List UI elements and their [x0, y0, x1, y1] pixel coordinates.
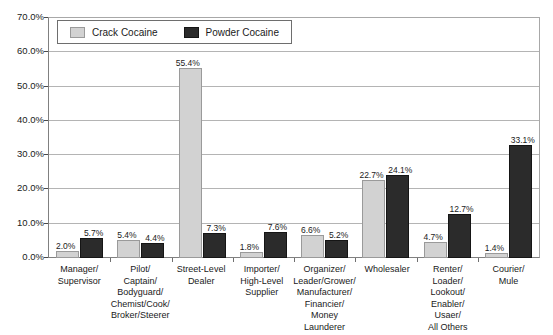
- bar-group: 4.7%12.7%: [417, 18, 478, 258]
- bar-group: 1.8%7.6%: [233, 18, 294, 258]
- x-axis-category-label: Manager/Supervisor: [49, 264, 110, 333]
- bar-value-label: 55.4%: [176, 58, 200, 68]
- bar-pair: 1.8%7.6%: [233, 18, 294, 258]
- bar-crack[interactable]: 1.4%: [485, 253, 508, 258]
- y-tick-label: 0.0%: [0, 252, 44, 262]
- x-tick-mark: [417, 258, 418, 262]
- x-axis-labels: Manager/SupervisorPilot/Captain/Bodyguar…: [49, 264, 539, 333]
- bar-pair: 5.4%4.4%: [110, 18, 171, 258]
- bar-value-label: 6.6%: [301, 225, 320, 235]
- bar-powder[interactable]: 5.7%: [80, 238, 103, 258]
- bar-powder[interactable]: 33.1%: [509, 145, 532, 258]
- x-tick-mark: [294, 258, 295, 262]
- bar-crack[interactable]: 2.0%: [56, 251, 79, 258]
- bar-pair: 1.4%33.1%: [478, 18, 539, 258]
- chart-legend: Crack CocainePowder Cocaine: [57, 20, 292, 44]
- bar-group: 2.0%5.7%: [49, 18, 110, 258]
- y-tick-label: 60.0%: [0, 46, 44, 56]
- bar-chart: 70.0%60.0%50.0%40.0%30.0%20.0%10.0%0.0% …: [0, 0, 553, 335]
- bar-value-label: 5.4%: [117, 230, 136, 240]
- bar-value-label: 33.1%: [511, 135, 535, 145]
- bar-powder[interactable]: 4.4%: [141, 243, 164, 258]
- bar-powder[interactable]: 7.3%: [203, 233, 226, 258]
- bar-value-label: 7.3%: [206, 223, 225, 233]
- x-axis-category-label: Renter/Loader/Lookout/Enabler/Usaer/All …: [418, 264, 479, 333]
- x-axis-category-label: Courier/Mule: [478, 264, 539, 333]
- x-tick-mark: [110, 258, 111, 262]
- bar-group: 22.7%24.1%: [355, 18, 416, 258]
- y-tick-label: 20.0%: [0, 183, 44, 193]
- x-tick-mark: [172, 258, 173, 262]
- bar-group: 55.4%7.3%: [172, 18, 233, 258]
- bar-powder[interactable]: 12.7%: [448, 214, 471, 258]
- bar-value-label: 4.7%: [424, 232, 443, 242]
- bar-groups: 2.0%5.7%5.4%4.4%55.4%7.3%1.8%7.6%6.6%5.2…: [49, 18, 539, 258]
- bar-value-label: 22.7%: [359, 170, 383, 180]
- y-tick-label: 40.0%: [0, 115, 44, 125]
- bar-pair: 22.7%24.1%: [355, 18, 416, 258]
- x-tick-mark: [478, 258, 479, 262]
- x-axis-category-label: Wholesaler: [357, 264, 418, 333]
- x-tick-mark: [355, 258, 356, 262]
- bar-pair: 4.7%12.7%: [417, 18, 478, 258]
- bar-value-label: 1.4%: [485, 243, 504, 253]
- bar-value-label: 1.8%: [240, 242, 259, 252]
- bar-crack[interactable]: 1.8%: [240, 252, 263, 258]
- legend-item[interactable]: Powder Cocaine: [184, 27, 279, 38]
- bar-value-label: 5.7%: [84, 228, 103, 238]
- legend-label: Crack Cocaine: [92, 27, 158, 38]
- y-tick-label: 50.0%: [0, 81, 44, 91]
- bar-value-label: 4.4%: [145, 233, 164, 243]
- x-axis-category-label: Importer/High-LevelSupplier: [232, 264, 293, 333]
- bar-pair: 2.0%5.7%: [49, 18, 110, 258]
- legend-swatch-powder: [184, 27, 199, 38]
- bar-crack[interactable]: 55.4%: [179, 68, 202, 258]
- legend-label: Powder Cocaine: [206, 27, 279, 38]
- bar-value-label: 12.7%: [449, 204, 473, 214]
- bar-value-label: 24.1%: [388, 165, 412, 175]
- bar-crack[interactable]: 5.4%: [117, 240, 140, 259]
- y-tick-label: 70.0%: [0, 12, 44, 22]
- bar-powder[interactable]: 24.1%: [386, 175, 409, 258]
- bar-crack[interactable]: 6.6%: [301, 235, 324, 258]
- bar-pair: 6.6%5.2%: [294, 18, 355, 258]
- bar-pair: 55.4%7.3%: [172, 18, 233, 258]
- y-tick-label: 10.0%: [0, 218, 44, 228]
- bar-value-label: 7.6%: [268, 222, 287, 232]
- bar-value-label: 5.2%: [329, 230, 348, 240]
- bar-group: 1.4%33.1%: [478, 18, 539, 258]
- legend-swatch-crack: [70, 27, 85, 38]
- y-tick-label: 30.0%: [0, 149, 44, 159]
- bar-group: 6.6%5.2%: [294, 18, 355, 258]
- bar-value-label: 2.0%: [56, 241, 75, 251]
- bar-crack[interactable]: 4.7%: [424, 242, 447, 258]
- bar-group: 5.4%4.4%: [110, 18, 171, 258]
- x-axis-category-label: Street-LevelDealer: [171, 264, 232, 333]
- bar-powder[interactable]: 5.2%: [325, 240, 348, 258]
- x-axis-category-label: Pilot/Captain/Bodyguard/Chemist/Cook/Bro…: [110, 264, 171, 333]
- x-tick-mark: [233, 258, 234, 262]
- bar-crack[interactable]: 22.7%: [362, 180, 385, 258]
- bar-powder[interactable]: 7.6%: [264, 232, 287, 258]
- legend-item[interactable]: Crack Cocaine: [70, 27, 158, 38]
- x-axis-category-label: Organizer/Leader/Grower/Manufacturer/Fin…: [292, 264, 357, 333]
- y-axis: 70.0%60.0%50.0%40.0%30.0%20.0%10.0%0.0%: [0, 17, 44, 258]
